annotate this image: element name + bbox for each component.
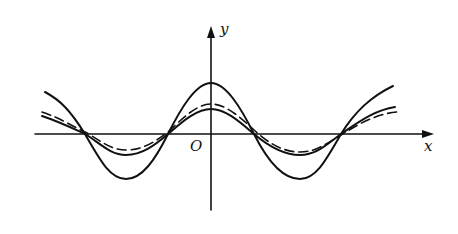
y-axis-arrow-icon (207, 26, 215, 38)
origin-label: O (190, 139, 202, 154)
y-axis-label: y (220, 22, 228, 37)
x-axis-label: x (424, 139, 432, 154)
function-graph (0, 0, 458, 234)
tall-solid-curve (45, 83, 393, 179)
